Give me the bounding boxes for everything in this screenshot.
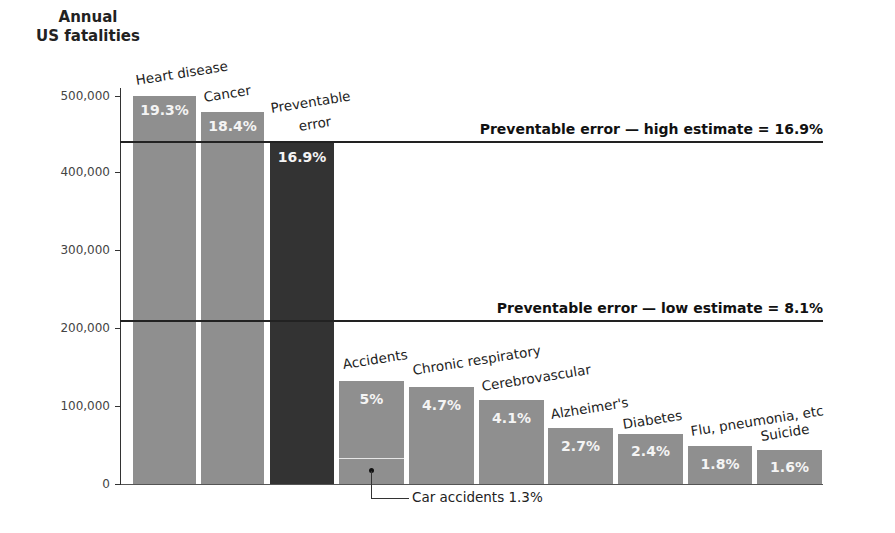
bar-percent-label: 1.8%	[688, 456, 752, 472]
bar-percent-label: 2.7%	[548, 438, 613, 454]
y-tick	[115, 96, 121, 97]
bar-cerebrovascular: 4.1%	[479, 400, 544, 484]
bar-percent-label: 5%	[339, 391, 404, 407]
category-label-preventable-line2: error	[297, 113, 332, 134]
y-axis-title-line1: Annual	[18, 8, 158, 27]
y-tick-label: 500,000	[60, 89, 110, 103]
low-estimate-label: Preventable error — low estimate = 8.1%	[497, 300, 823, 316]
y-axis-title-line2: US fatalities	[18, 27, 158, 46]
bar-diabetes: 2.4%	[618, 434, 683, 484]
category-label-cancer: Cancer	[202, 82, 251, 105]
bar-alzheimers: 2.7%	[548, 428, 613, 484]
bar-percent-label: 1.6%	[757, 459, 822, 475]
bar-percent-label: 18.4%	[201, 118, 264, 134]
car-accidents-leader-horizontal	[371, 498, 409, 499]
bar-cancer: 18.4%	[201, 112, 264, 484]
x-axis-baseline	[115, 484, 823, 485]
y-tick	[115, 328, 121, 329]
y-tick-label: 200,000	[60, 321, 110, 335]
low-estimate-line	[120, 320, 823, 322]
high-estimate-line	[120, 141, 823, 143]
bar-suicide: 1.6%	[757, 450, 822, 484]
bar-percent-label: 16.9%	[270, 149, 334, 165]
y-tick-label: 400,000	[60, 165, 110, 179]
category-label-heart-disease: Heart disease	[134, 58, 228, 88]
y-tick	[115, 406, 121, 407]
bar-percent-label: 4.7%	[409, 397, 474, 413]
y-tick	[115, 484, 121, 485]
category-label-preventable-line1: Preventable	[269, 88, 351, 116]
car-accidents-leader-vertical	[371, 471, 372, 498]
y-axis-line	[120, 88, 121, 485]
category-label-cerebrovascular: Cerebrovascular	[480, 361, 591, 394]
y-tick-label: 100,000	[60, 399, 110, 413]
y-tick-label: 300,000	[60, 243, 110, 257]
bar-flu-pneumonia: 1.8%	[688, 446, 752, 484]
bar-chronic-respiratory: 4.7%	[409, 387, 474, 484]
category-label-accidents: Accidents	[341, 346, 408, 372]
y-tick	[115, 250, 121, 251]
bar-preventable-error: 16.9%	[270, 143, 334, 484]
high-estimate-label: Preventable error — high estimate = 16.9…	[480, 121, 823, 137]
category-label-alzheimers: Alzheimer's	[549, 394, 629, 422]
y-tick-label: 0	[102, 477, 110, 491]
bar-heart-disease: 19.3%	[133, 96, 196, 484]
car-accidents-label: Car accidents 1.3%	[412, 489, 543, 505]
y-tick	[115, 172, 121, 173]
bar-percent-label: 19.3%	[133, 102, 196, 118]
bar-percent-label: 2.4%	[618, 443, 683, 459]
y-axis-title: Annual US fatalities	[18, 8, 158, 46]
car-accidents-segment-divider	[339, 458, 404, 459]
bar-percent-label: 4.1%	[479, 410, 544, 426]
category-label-diabetes: Diabetes	[621, 407, 683, 432]
